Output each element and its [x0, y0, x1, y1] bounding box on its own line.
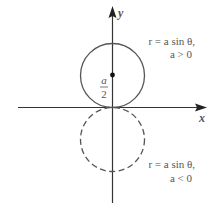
- x-axis-label: x: [198, 111, 205, 125]
- polar-circle-diagram: a 2 y x r = a sin θ, a > 0 r = a sin θ, …: [0, 0, 216, 211]
- y-axis-label: y: [116, 6, 124, 20]
- lower-equation-line1: r = a sin θ,: [148, 158, 195, 170]
- upper-equation-line1: r = a sin θ,: [148, 35, 195, 47]
- lower-equation-line2: a < 0: [170, 172, 193, 184]
- upper-equation-line2: a > 0: [170, 48, 193, 60]
- center-label-denominator: 2: [101, 88, 107, 100]
- center-point: [110, 73, 115, 78]
- center-label-numerator: a: [101, 74, 107, 86]
